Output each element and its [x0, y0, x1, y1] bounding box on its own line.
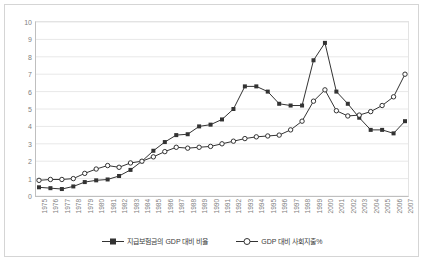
data-point-paid_insurance	[346, 102, 350, 106]
x-axis-tick-label: 1982	[122, 199, 129, 213]
data-point-paid_insurance	[94, 178, 98, 182]
x-axis-tick-label: 1981	[111, 199, 118, 213]
data-point-paid_insurance	[129, 168, 133, 172]
x-axis-tick-label: 2002	[351, 199, 358, 213]
chart-legend: 지급보험금의 GDP 대비 비율 GDP 대비 사회지출%	[5, 237, 420, 246]
x-axis-tick-label: 2000	[328, 199, 335, 213]
x-axis-tick-label: 1992	[236, 199, 243, 213]
x-axis-tick-label: 1991	[225, 199, 232, 213]
x-axis-tick-label: 1979	[88, 199, 95, 213]
x-axis-tick-label: 1980	[99, 199, 106, 213]
x-axis-tick-label: 1994	[259, 199, 266, 213]
data-point-paid_insurance	[48, 186, 52, 190]
y-axis-tick-label: 2	[28, 158, 32, 165]
x-axis-tick-label: 1978	[76, 199, 83, 213]
data-point-paid_insurance	[209, 123, 213, 127]
y-axis-tick-label: 1	[28, 175, 32, 182]
plot-area: 0123456789101975197619771978197919801981…	[35, 21, 409, 197]
x-axis-tick-label: 1993	[248, 199, 255, 213]
data-point-paid_insurance	[117, 174, 121, 178]
x-axis-tick-label: 1986	[168, 199, 175, 213]
x-axis-tick-label: 2006	[397, 199, 404, 213]
series-line-social_expenditure	[39, 74, 405, 180]
legend-label-paid-insurance: 지급보험금의 GDP 대비 비율	[127, 238, 208, 245]
data-point-social_expenditure	[391, 95, 395, 99]
y-axis-tick-label: 6	[28, 88, 32, 95]
x-axis-tick-label: 1990	[214, 199, 221, 213]
data-point-social_expenditure	[346, 114, 350, 118]
chart-svg	[36, 22, 408, 196]
y-axis-tick-label: 8	[28, 53, 32, 60]
data-point-social_expenditure	[105, 163, 109, 167]
data-point-social_expenditure	[288, 128, 292, 132]
data-point-social_expenditure	[37, 178, 41, 182]
x-axis-tick-label: 1985	[156, 199, 163, 213]
data-point-social_expenditure	[323, 88, 327, 92]
data-point-paid_insurance	[243, 84, 247, 88]
x-axis-tick-label: 1998	[305, 199, 312, 213]
y-axis-tick-label: 7	[28, 71, 32, 78]
data-point-paid_insurance	[323, 41, 327, 45]
data-point-paid_insurance	[300, 104, 304, 108]
data-point-paid_insurance	[266, 90, 270, 94]
x-axis-tick-label: 2003	[362, 199, 369, 213]
data-point-social_expenditure	[197, 145, 201, 149]
data-point-social_expenditure	[357, 113, 361, 117]
data-point-social_expenditure	[71, 176, 75, 180]
y-axis-tick-label: 5	[28, 106, 32, 113]
data-point-paid_insurance	[186, 132, 190, 136]
y-axis-tick-label: 9	[28, 36, 32, 43]
filled-square-marker-icon	[102, 237, 124, 246]
data-point-paid_insurance	[231, 107, 235, 111]
data-point-paid_insurance	[163, 140, 167, 144]
data-point-paid_insurance	[106, 177, 110, 181]
x-axis-tick-label: 1999	[317, 199, 324, 213]
data-point-social_expenditure	[185, 146, 189, 150]
data-point-social_expenditure	[220, 142, 224, 146]
x-axis-tick-label: 1989	[202, 199, 209, 213]
data-point-paid_insurance	[312, 58, 316, 62]
data-point-paid_insurance	[37, 185, 41, 189]
data-point-social_expenditure	[380, 103, 384, 107]
y-axis-tick-label: 0	[28, 193, 32, 200]
data-point-paid_insurance	[369, 128, 373, 132]
x-axis-tick-label: 2001	[339, 199, 346, 213]
open-circle-marker-icon	[236, 237, 258, 246]
data-point-social_expenditure	[140, 159, 144, 163]
data-point-social_expenditure	[128, 161, 132, 165]
x-axis-tick-label: 2005	[385, 199, 392, 213]
data-point-social_expenditure	[300, 119, 304, 123]
data-point-social_expenditure	[151, 155, 155, 159]
x-axis-tick-label: 1987	[179, 199, 186, 213]
chart-frame: 0123456789101975197619771978197919801981…	[4, 4, 419, 257]
data-point-social_expenditure	[254, 135, 258, 139]
data-point-paid_insurance	[220, 117, 224, 121]
data-point-social_expenditure	[94, 167, 98, 171]
data-point-paid_insurance	[277, 102, 281, 106]
y-axis-tick-label: 10	[24, 19, 32, 26]
data-point-paid_insurance	[289, 104, 293, 108]
x-axis-tick-label: 1975	[42, 199, 49, 213]
data-point-paid_insurance	[334, 90, 338, 94]
data-point-social_expenditure	[83, 171, 87, 175]
data-point-social_expenditure	[60, 177, 64, 181]
data-point-social_expenditure	[403, 72, 407, 76]
x-axis-tick-label: 1996	[282, 199, 289, 213]
data-point-social_expenditure	[163, 149, 167, 153]
x-axis-tick-label: 2004	[374, 199, 381, 213]
data-point-social_expenditure	[208, 144, 212, 148]
data-point-paid_insurance	[83, 180, 87, 184]
x-axis-tick-label: 2007	[408, 199, 415, 213]
data-point-social_expenditure	[174, 145, 178, 149]
x-axis-tick-label: 1976	[53, 199, 60, 213]
x-axis-tick-label: 1995	[271, 199, 278, 213]
data-point-paid_insurance	[392, 131, 396, 135]
legend-item-social-expenditure: GDP 대비 사회지출%	[236, 237, 322, 246]
data-point-social_expenditure	[334, 109, 338, 113]
data-point-paid_insurance	[254, 84, 258, 88]
x-axis-tick-label: 1984	[145, 199, 152, 213]
data-point-social_expenditure	[231, 139, 235, 143]
data-point-paid_insurance	[380, 128, 384, 132]
data-point-social_expenditure	[311, 99, 315, 103]
data-point-paid_insurance	[174, 133, 178, 137]
